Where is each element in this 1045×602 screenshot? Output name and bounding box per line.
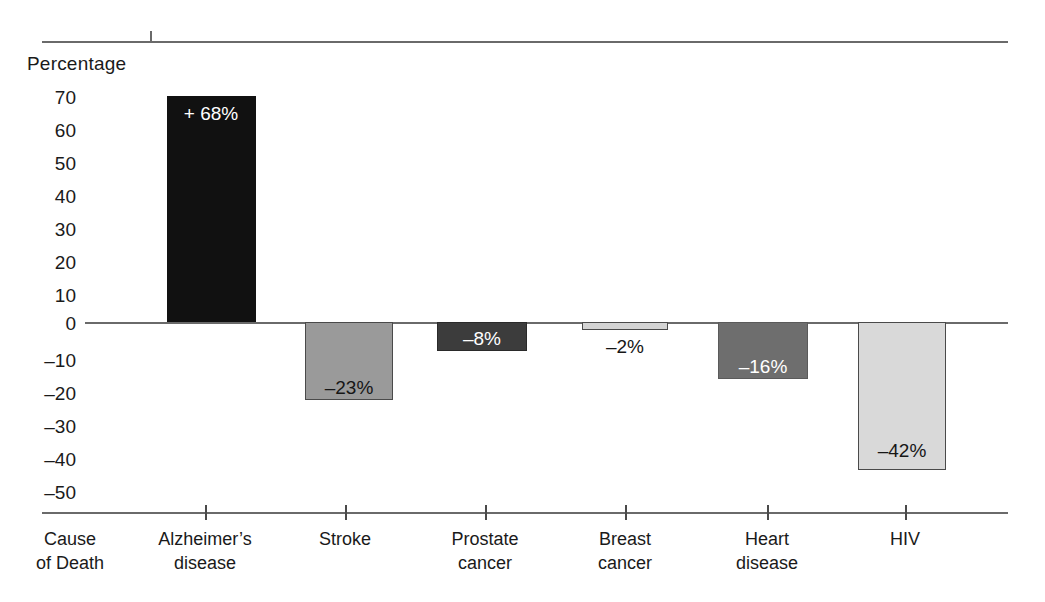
x-tick-heart-disease [767,505,769,520]
x-label-line1: Prostate [451,527,518,551]
x-label-prostate-cancer: Prostate cancer [451,527,518,575]
bar-value-stroke: –23% [325,378,374,397]
x-label-line2: cancer [451,551,518,575]
y-tick-label-20: 20 [18,253,76,272]
x-label-line2: disease [158,551,251,575]
y-tick-label-10: 10 [18,286,76,305]
y-tick-label-70: 70 [18,88,76,107]
x-axis-line [42,512,1008,514]
bar-value-breast-cancer: –2% [606,337,644,356]
y-tick-label-40: 40 [18,187,76,206]
x-label-hiv: HIV [890,527,920,551]
x-label-line1: Breast [598,527,652,551]
bar-value-prostate-cancer: –8% [463,329,501,348]
y-tick-label-m50: –50 [18,483,76,502]
y-tick-label-30: 30 [18,220,76,239]
y-tick-label-0: 0 [18,314,76,333]
x-label-line1: HIV [890,527,920,551]
x-axis-title-line2: of Death [36,551,104,575]
x-label-line1: Alzheimer’s [158,527,251,551]
x-axis-title-line1: Cause [36,527,104,551]
y-axis-title: Percentage [27,53,126,75]
y-tick-label-50: 50 [18,154,76,173]
x-label-breast-cancer: Breast cancer [598,527,652,575]
x-tick-stroke [345,505,347,520]
x-axis-title: Cause of Death [36,527,104,575]
bar-breast-cancer [582,322,668,330]
x-label-heart-disease: Heart disease [736,527,798,575]
y-tick-label-m20: –20 [18,384,76,403]
x-tick-breast-cancer [625,505,627,520]
x-tick-prostate-cancer [485,505,487,520]
x-label-line1: Heart [736,527,798,551]
bar-chart: Percentage 70 60 50 40 30 20 10 0 –10 –2… [0,0,1045,602]
top-rule-line [42,41,1008,43]
y-tick-label-m30: –30 [18,417,76,436]
x-label-line1: Stroke [319,527,371,551]
x-tick-hiv [905,505,907,520]
bar-value-hiv: –42% [878,441,927,460]
bar-value-alzheimers-disease: + 68% [184,104,238,123]
bar-alzheimers-disease [167,96,256,322]
y-tick-label-60: 60 [18,121,76,140]
x-label-stroke: Stroke [319,527,371,551]
x-label-alzheimers-disease: Alzheimer’s disease [158,527,251,575]
y-tick-label-m10: –10 [18,351,76,370]
x-label-line2: cancer [598,551,652,575]
y-tick-label-m40: –40 [18,450,76,469]
x-tick-alzheimers-disease [205,505,207,520]
top-rule-tick [150,31,152,41]
x-label-line2: disease [736,551,798,575]
bar-value-heart-disease: –16% [739,357,788,376]
